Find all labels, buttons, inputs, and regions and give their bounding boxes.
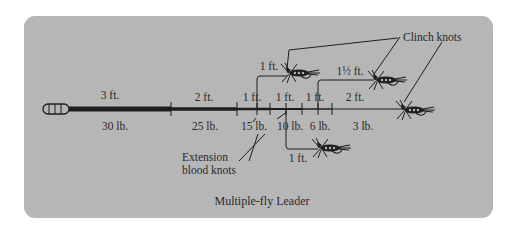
length-label: 1 ft. [306, 91, 325, 103]
strength-label: 25 lb. [192, 120, 218, 132]
dropper-length-label: 1 ft. [260, 60, 279, 72]
length-label: 2 ft. [195, 91, 214, 103]
length-label: 1 ft. [243, 91, 262, 103]
leader-diagram: 3 ft. 2 ft. 1 ft. 1 ft. 1 ft. 2 ft. 30 l… [0, 0, 516, 231]
dropper-lines [257, 76, 374, 149]
length-label: 1 ft. [276, 91, 295, 103]
dropper-length-label: 1½ ft. [336, 65, 363, 77]
strength-label: 3 lb. [353, 120, 374, 132]
extension-blood-knots-label: blood knots [182, 164, 237, 176]
strength-label: 6 lb. [310, 120, 331, 132]
fly-icon [396, 100, 435, 120]
strength-label: 10 lb. [277, 120, 303, 132]
clinch-knots-label: Clinch knots [403, 31, 462, 43]
fly-line-loop-icon [43, 104, 69, 114]
fly-icon [281, 63, 320, 83]
length-label: 3 ft. [101, 89, 120, 101]
strength-label: 15 lb. [241, 120, 267, 132]
extension-blood-knots-label: Extension [182, 151, 228, 163]
fly-icon [312, 138, 351, 158]
length-label: 2 ft. [346, 91, 365, 103]
diagram-title: Multiple-fly Leader [215, 194, 310, 208]
dropper-length-label: 1 ft. [289, 152, 308, 164]
strength-label: 30 lb. [102, 120, 128, 132]
